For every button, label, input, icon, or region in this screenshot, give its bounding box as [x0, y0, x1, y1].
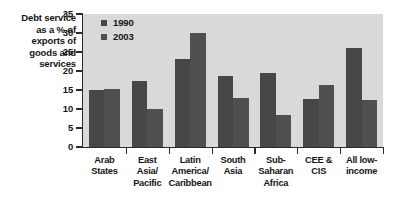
- x-tick-end: [383, 148, 384, 154]
- x-tick-3: [212, 148, 213, 154]
- bar-2003-0: [104, 89, 120, 147]
- bar-2003-6: [362, 100, 378, 147]
- category-label-2-line-0: Latin: [166, 155, 215, 166]
- y-tick-5: [76, 127, 82, 128]
- bar-1990-3: [218, 76, 234, 147]
- bars-layer: [83, 14, 383, 147]
- category-label-4-line-1: Saharan: [251, 166, 300, 177]
- x-tick-6: [340, 148, 341, 154]
- y-axis-title: Debt serviceas a % ofexports ofgoods and…: [2, 12, 76, 70]
- bar-1990-2: [175, 59, 191, 147]
- y-tick-0: [76, 146, 82, 147]
- x-axis-line: [82, 147, 384, 148]
- x-tick-1: [126, 148, 127, 154]
- category-label-6-line-1: income: [337, 166, 386, 177]
- y-tick-label-5: 5: [51, 122, 73, 133]
- category-label-3: SouthAsia: [209, 155, 258, 178]
- category-label-4: Sub-SaharanAfrica: [251, 155, 300, 189]
- category-label-1-line-0: East: [123, 155, 172, 166]
- category-label-3-line-0: South: [209, 155, 258, 166]
- bar-2003-3: [233, 98, 249, 147]
- y-tick-label-15: 15: [51, 84, 73, 95]
- category-label-0-line-1: States: [80, 166, 129, 177]
- y-tick-label-25: 25: [51, 46, 73, 57]
- bar-1990-5: [303, 99, 319, 147]
- y-tick-label-35: 35: [51, 8, 73, 19]
- category-label-5-line-0: CEE &: [294, 155, 343, 166]
- category-label-0-line-0: Arab: [80, 155, 129, 166]
- x-tick-4: [254, 148, 255, 154]
- bar-2003-5: [319, 85, 335, 147]
- category-label-1: EastAsia/Pacific: [123, 155, 172, 189]
- category-label-2-line-1: America/: [166, 166, 215, 177]
- y-tick-10: [76, 108, 82, 109]
- bar-2003-1: [147, 109, 163, 147]
- category-label-1-line-2: Pacific: [123, 178, 172, 189]
- category-label-3-line-1: Asia: [209, 166, 258, 177]
- bar-1990-0: [89, 90, 105, 147]
- category-label-2: LatinAmerica/Caribbean: [166, 155, 215, 189]
- y-tick-label-20: 20: [51, 65, 73, 76]
- bar-1990-6: [346, 48, 362, 147]
- y-tick-label-30: 30: [51, 27, 73, 38]
- chart-figure: Debt serviceas a % ofexports ofgoods and…: [0, 0, 398, 205]
- x-tick-2: [169, 148, 170, 154]
- category-label-1-line-1: Asia/: [123, 166, 172, 177]
- y-tick-25: [76, 51, 82, 52]
- category-label-2-line-2: Caribbean: [166, 178, 215, 189]
- category-label-5: CEE &CIS: [294, 155, 343, 178]
- category-label-4-line-2: Africa: [251, 178, 300, 189]
- category-label-0: ArabStates: [80, 155, 129, 178]
- category-label-6-line-0: All low-: [337, 155, 386, 166]
- x-tick-5: [297, 148, 298, 154]
- y-tick-label-0: 0: [51, 141, 73, 152]
- category-label-6: All low-income: [337, 155, 386, 178]
- bar-2003-2: [190, 33, 206, 147]
- bar-2003-4: [276, 115, 292, 147]
- y-tick-35: [76, 13, 82, 14]
- category-label-4-line-0: Sub-: [251, 155, 300, 166]
- category-label-5-line-1: CIS: [294, 166, 343, 177]
- y-tick-30: [76, 32, 82, 33]
- bar-1990-4: [260, 73, 276, 147]
- y-tick-label-10: 10: [51, 103, 73, 114]
- y-tick-15: [76, 89, 82, 90]
- y-tick-20: [76, 70, 82, 71]
- bar-1990-1: [132, 81, 148, 148]
